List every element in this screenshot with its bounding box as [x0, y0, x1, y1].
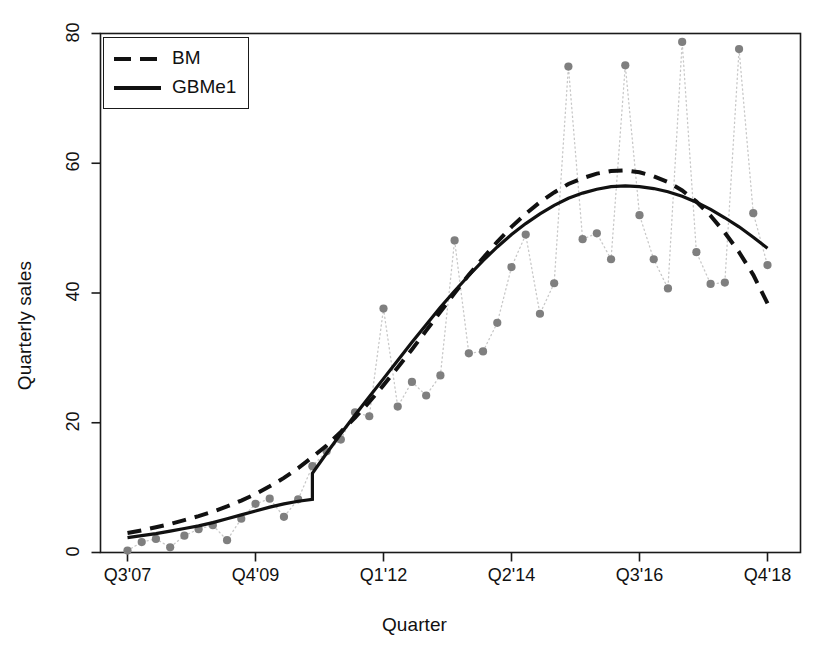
legend-entry-gbme1: GBMe1	[114, 72, 236, 102]
y-tick-label: 0	[62, 531, 83, 571]
x-tick-label: Q1'12	[334, 565, 434, 586]
y-tick-label: 60	[62, 142, 83, 182]
x-axis-title: Quarter	[0, 614, 829, 636]
y-tick-label: 40	[62, 272, 83, 312]
chart-legend: BM GBMe1	[103, 37, 249, 109]
plot-frame	[101, 34, 801, 553]
y-axis-ticks	[92, 34, 101, 553]
observed-series-points	[123, 38, 771, 555]
y-axis-title: Quarterly sales	[14, 0, 38, 651]
x-axis-ticks	[128, 553, 768, 562]
legend-entry-bm: BM	[114, 43, 201, 73]
legend-label-gbme1: GBMe1	[172, 76, 236, 98]
legend-key-dashed-icon	[114, 51, 162, 65]
x-tick-label: Q4'18	[718, 565, 818, 586]
y-tick-label: 80	[62, 12, 83, 52]
observed-series-line	[128, 42, 768, 551]
y-tick-label: 20	[62, 401, 83, 441]
legend-key-solid-icon	[114, 80, 162, 94]
x-tick-label: Q4'09	[206, 565, 306, 586]
chart-figure: Quarterly sales Quarter Q3'07Q4'09Q1'12Q…	[0, 0, 829, 651]
x-tick-label: Q3'07	[78, 565, 178, 586]
legend-label-bm: BM	[172, 47, 201, 69]
x-tick-label: Q3'16	[590, 565, 690, 586]
x-tick-label: Q2'14	[462, 565, 562, 586]
